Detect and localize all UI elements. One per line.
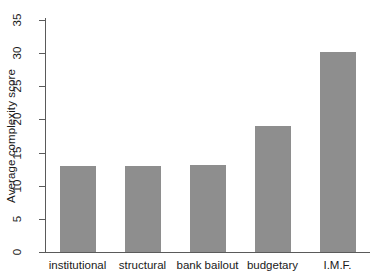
y-axis-tick-label: 30 <box>11 36 23 70</box>
y-axis-tick-label: 5 <box>11 202 23 236</box>
plot-area <box>45 18 370 252</box>
y-axis-tick-label: 10 <box>11 169 23 203</box>
y-axis-tick-label: 35 <box>11 3 23 37</box>
x-axis-tick-label: I.M.F. <box>305 257 370 273</box>
y-axis-tick-mark <box>39 252 45 253</box>
bar[interactable] <box>190 165 226 252</box>
bar[interactable] <box>320 52 356 252</box>
bar[interactable] <box>255 126 291 252</box>
x-axis-tick-label: institutional <box>45 257 110 273</box>
y-axis-tick-label: 0 <box>11 235 23 269</box>
bar-chart: Average complexity score 05101520253035 … <box>0 0 380 280</box>
x-axis-line <box>45 252 370 253</box>
x-axis-tick-label: bank bailout <box>175 257 240 273</box>
y-axis-tick-label: 25 <box>11 69 23 103</box>
y-axis-tick-label: 15 <box>11 136 23 170</box>
bar[interactable] <box>125 166 161 252</box>
x-axis-tick-label: structural <box>110 257 175 273</box>
y-axis-tick-label: 20 <box>11 102 23 136</box>
bar[interactable] <box>60 166 96 252</box>
x-axis-tick-label: budgetary <box>240 257 305 273</box>
